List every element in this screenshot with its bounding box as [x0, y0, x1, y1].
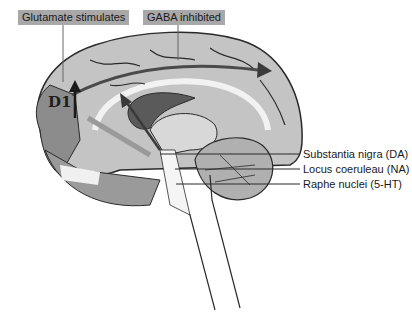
gaba-label: GABA inhibited [143, 10, 225, 25]
locus-coeruleus-label: Locus coeruleau (NA) [303, 163, 409, 176]
glutamate-label: Glutamate stimulates [18, 10, 129, 25]
d1-receptor-label: D1 [48, 93, 71, 111]
substantia-nigra-label: Substantia nigra (DA) [303, 148, 408, 161]
raphe-nuclei-label: Raphe nuclei (5-HT) [303, 178, 402, 191]
